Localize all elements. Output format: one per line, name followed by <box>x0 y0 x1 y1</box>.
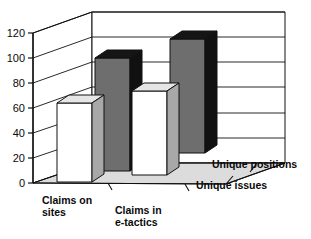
y-tick-label-100: 100 <box>7 52 25 64</box>
y-tick-label-40: 40 <box>13 127 25 139</box>
y-tick-label-20: 20 <box>13 152 25 164</box>
y-tick-label-0: 0 <box>19 177 25 189</box>
category-label-claims-on-sites-line2: sites <box>42 206 66 218</box>
category-label-claims-on-sites-line1: Claims on <box>42 194 92 206</box>
y-tick-label-80: 80 <box>13 77 25 89</box>
y-axis-tick-labels: 120 100 80 60 40 20 0 <box>7 27 25 189</box>
series-label-unique-issues: Unique issues <box>196 179 267 191</box>
y-tick-label-60: 60 <box>13 102 25 114</box>
y-tick-label-120: 120 <box>7 27 25 39</box>
y-axis <box>28 33 33 183</box>
bar-unique-issues-claims-in-e-tactics <box>132 83 179 175</box>
series-label-unique-positions: Unique positions <box>212 158 297 170</box>
category-labels: Claims on sites Claims in e-tactics <box>42 194 162 228</box>
category-label-claims-in-e-tactics-line1: Claims in <box>115 204 162 216</box>
chart-container: 120 100 80 60 40 20 0 <box>0 0 311 239</box>
category-label-claims-in-e-tactics-line2: e-tactics <box>115 216 158 228</box>
bar-unique-issues-claims-on-sites <box>57 95 104 182</box>
bar-chart-3d: 120 100 80 60 40 20 0 <box>0 0 311 239</box>
